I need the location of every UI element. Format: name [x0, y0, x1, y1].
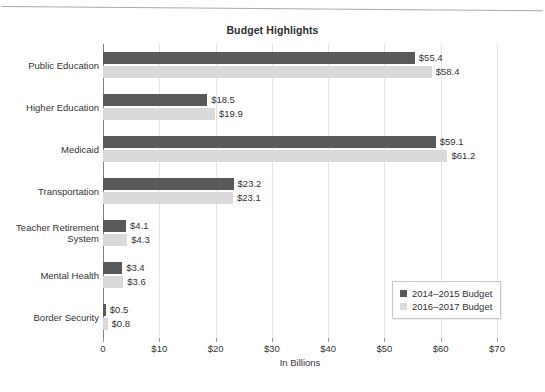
- bar[interactable]: [103, 108, 215, 120]
- bar-row: $59.1: [103, 136, 497, 148]
- bar-group: $23.2$23.1: [103, 178, 497, 204]
- bar-value-label: $19.9: [215, 108, 243, 119]
- x-axis-ticks: 0$10$20$30$40$50$60$70: [103, 338, 497, 356]
- x-tick-label: $30: [264, 343, 280, 354]
- bar-value-label: $4.1: [126, 220, 149, 231]
- bar-value-label: $3.4: [122, 262, 145, 273]
- bar[interactable]: [103, 192, 233, 204]
- bar[interactable]: [103, 150, 447, 162]
- bar-row: $4.1: [103, 220, 497, 232]
- x-tick-mark: [497, 338, 498, 342]
- legend-swatch-icon: [400, 290, 407, 297]
- bar-value-label: $58.4: [432, 66, 460, 77]
- bar-row: $23.2: [103, 178, 497, 190]
- bar[interactable]: [103, 262, 122, 274]
- category-label: Transportation: [0, 186, 99, 197]
- bar[interactable]: [103, 234, 127, 246]
- legend-item[interactable]: 2014–2015 Budget: [400, 287, 492, 300]
- legend-item[interactable]: 2016–2017 Budget: [400, 300, 492, 313]
- x-tick-mark: [103, 338, 104, 342]
- bar-row: $61.2: [103, 150, 497, 162]
- bar-value-label: $0.5: [106, 304, 129, 315]
- x-tick-label: $70: [489, 343, 505, 354]
- bar-row: $4.3: [103, 234, 497, 246]
- x-tick-label: $40: [320, 343, 336, 354]
- x-tick-label: $10: [151, 343, 167, 354]
- bar-row: $0.8: [103, 318, 497, 330]
- bar[interactable]: [103, 52, 415, 64]
- scan-artifact-rule: [2, 6, 543, 11]
- bar-group: $4.1$4.3: [103, 220, 497, 246]
- bar-value-label: $3.6: [123, 276, 146, 287]
- x-axis-title: In Billions: [103, 357, 497, 368]
- bar-value-label: $4.3: [127, 234, 150, 245]
- x-tick-mark: [384, 338, 385, 342]
- bar-group: $55.4$58.4: [103, 52, 497, 78]
- category-label: Mental Health: [0, 270, 99, 281]
- x-tick-label: $60: [433, 343, 449, 354]
- bar[interactable]: [103, 94, 207, 106]
- bar-value-label: $23.2: [234, 178, 262, 189]
- legend-swatch-icon: [400, 303, 407, 310]
- x-tick-mark: [216, 338, 217, 342]
- bar-row: $19.9: [103, 108, 497, 120]
- category-label: Medicaid: [0, 144, 99, 155]
- x-tick-label: $20: [208, 343, 224, 354]
- chart-legend: 2014–2015 Budget2016–2017 Budget: [392, 281, 501, 319]
- bar[interactable]: [103, 220, 126, 232]
- category-label: Teacher RetirementSystem: [0, 222, 99, 244]
- bar[interactable]: [103, 276, 123, 288]
- bar-group: $59.1$61.2: [103, 136, 497, 162]
- bar-value-label: $55.4: [415, 52, 443, 63]
- x-tick-label: $50: [376, 343, 392, 354]
- bar-value-label: $59.1: [436, 136, 464, 147]
- x-tick-mark: [272, 338, 273, 342]
- bar-value-label: $23.1: [233, 192, 261, 203]
- legend-label: 2014–2015 Budget: [412, 288, 492, 299]
- chart-figure: Budget Highlights $55.4$58.4$18.5$19.9$5…: [0, 0, 545, 392]
- x-tick-mark: [159, 338, 160, 342]
- category-label: Higher Education: [0, 102, 99, 113]
- bar-row: $58.4: [103, 66, 497, 78]
- bar-value-label: $18.5: [207, 94, 235, 105]
- category-label: Public Education: [0, 60, 99, 71]
- legend-label: 2016–2017 Budget: [412, 301, 492, 312]
- chart-title: Budget Highlights: [0, 24, 545, 36]
- bar-row: $55.4: [103, 52, 497, 64]
- x-tick-label: 0: [100, 343, 105, 354]
- bar-value-label: $61.2: [447, 150, 475, 161]
- bar-row: $3.4: [103, 262, 497, 274]
- bar[interactable]: [103, 178, 234, 190]
- category-axis-labels: Public EducationHigher EducationMedicaid…: [0, 44, 99, 338]
- x-tick-mark: [328, 338, 329, 342]
- bar[interactable]: [103, 136, 436, 148]
- bar-row: $23.1: [103, 192, 497, 204]
- bar-group: $18.5$19.9: [103, 94, 497, 120]
- x-tick-mark: [441, 338, 442, 342]
- bar-value-label: $0.8: [108, 318, 131, 329]
- bar-row: $18.5: [103, 94, 497, 106]
- bar[interactable]: [103, 66, 432, 78]
- category-label: Border Security: [0, 312, 99, 323]
